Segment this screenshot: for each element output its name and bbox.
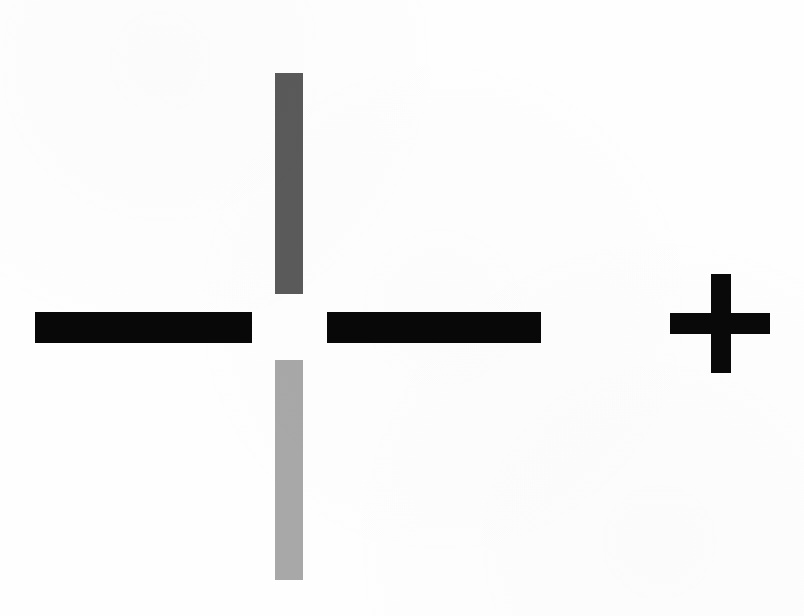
image-canvas	[0, 0, 804, 616]
plus-sign-mark	[0, 0, 804, 616]
plus-sign-horizontal-stroke	[670, 313, 770, 334]
